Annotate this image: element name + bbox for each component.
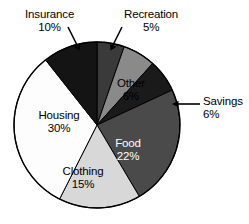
pie-label-savings-name: Savings <box>203 95 243 108</box>
pie-label-housing-name: Housing <box>38 109 79 122</box>
pie-label-food-name: Food <box>115 137 141 150</box>
pie-label-savings: Savings 6% <box>203 95 243 121</box>
pie-label-other-name: Other <box>117 77 145 90</box>
pie-label-insurance-name: Insurance <box>25 8 74 21</box>
pie-label-insurance-value: 10% <box>25 21 74 34</box>
pie-label-housing-value: 30% <box>38 122 79 135</box>
pie-label-recreation: Recreation 5% <box>124 8 178 34</box>
pie-label-savings-value: 6% <box>203 108 243 121</box>
pie-label-food: Food 22% <box>115 137 141 163</box>
pie-label-housing: Housing 30% <box>38 109 79 135</box>
pie-label-recreation-value: 5% <box>124 21 178 34</box>
pie-label-clothing-value: 15% <box>63 178 104 191</box>
pie-chart-figure: Insurance 10% Recreation 5% Savings 6% O… <box>0 0 249 224</box>
pie-label-clothing-name: Clothing <box>63 165 104 178</box>
pie-label-food-value: 22% <box>115 150 141 163</box>
pie-label-clothing: Clothing 15% <box>63 165 104 191</box>
pie-label-insurance: Insurance 10% <box>25 8 74 34</box>
pie-label-other-value: 6% <box>117 90 145 103</box>
pie-label-recreation-name: Recreation <box>124 8 178 21</box>
pie-label-other: Other 6% <box>117 77 145 103</box>
